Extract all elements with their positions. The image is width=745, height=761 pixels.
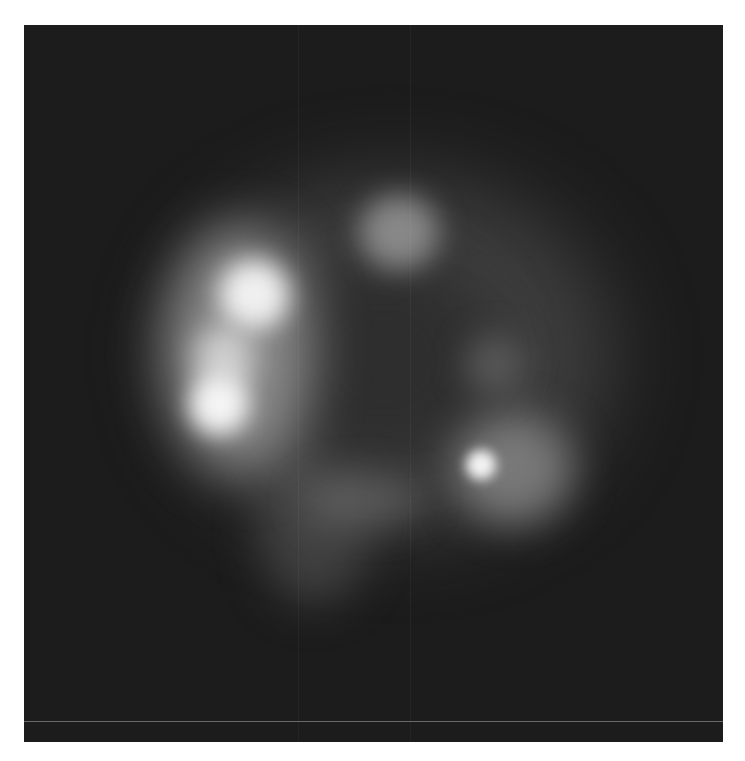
lower-middle-faint — [304, 475, 424, 525]
scan-line-vertical — [410, 25, 411, 742]
scan-line-horizontal — [24, 721, 723, 722]
top-blob — [359, 195, 439, 270]
left-arc-bottom — [189, 375, 249, 435]
scan-line-vertical — [298, 25, 299, 742]
micrograph-image — [24, 25, 723, 742]
right-faint-region — [464, 335, 524, 395]
left-arc-top — [219, 260, 289, 330]
lower-right-spot — [466, 450, 496, 480]
